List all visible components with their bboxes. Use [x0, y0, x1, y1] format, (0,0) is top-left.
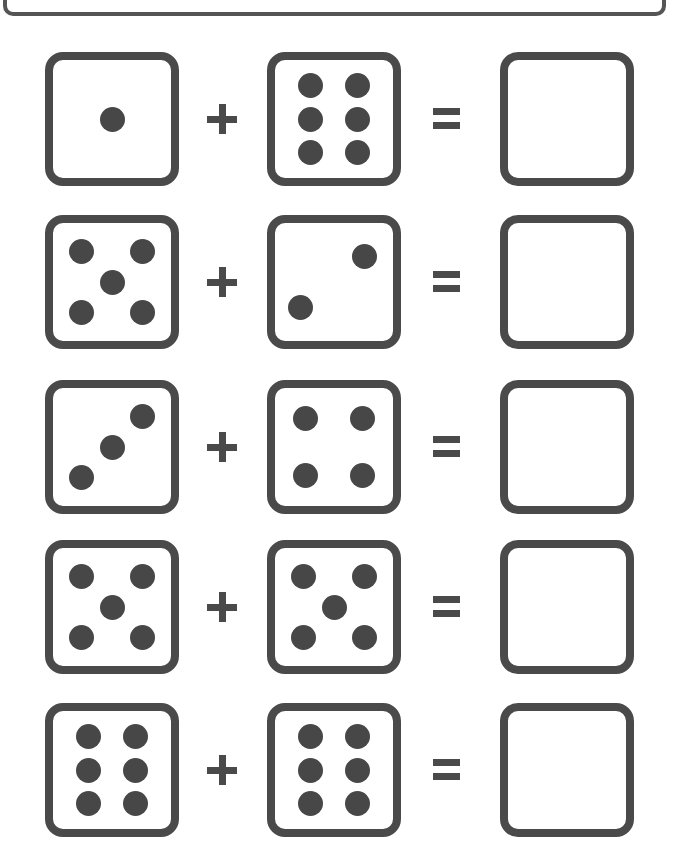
equals-icon: = [426, 703, 466, 837]
plus-icon: + [202, 52, 242, 186]
pip-icon [350, 406, 375, 431]
pip-icon [352, 244, 377, 269]
die-right-value: 6 [275, 60, 276, 61]
answer-value [508, 548, 509, 549]
pip-icon [352, 625, 377, 650]
pip-icon [76, 758, 101, 783]
pip-icon [130, 564, 155, 589]
pip-icon [352, 564, 377, 589]
pip-icon [345, 140, 370, 165]
pip-icon [69, 625, 94, 650]
equals-icon: = [426, 380, 466, 514]
problem-row: 5 + 2 = [0, 215, 677, 351]
pip-icon [69, 300, 94, 325]
die-left-value: 5 [53, 548, 54, 549]
pip-icon [345, 758, 370, 783]
pip-icon [298, 758, 323, 783]
problem-row: 6 + 6 = [0, 703, 677, 839]
equals-icon: = [426, 540, 466, 674]
header-box [3, 0, 666, 16]
equals-icon: = [426, 215, 466, 349]
pip-icon [291, 625, 316, 650]
pip-icon [123, 791, 148, 816]
answer-value [508, 223, 509, 224]
pip-icon [100, 107, 125, 132]
equals-icon: = [426, 52, 466, 186]
pip-icon [130, 404, 155, 429]
answer-box[interactable] [500, 52, 634, 186]
pip-icon [69, 465, 94, 490]
die-right-value: 6 [275, 711, 276, 712]
answer-box[interactable] [500, 215, 634, 349]
pip-icon [130, 625, 155, 650]
plus-icon: + [202, 380, 242, 514]
pip-icon [130, 300, 155, 325]
answer-value [508, 60, 509, 61]
pip-icon [100, 435, 125, 460]
die-left-value: 1 [53, 60, 54, 61]
die-left: 6 [45, 703, 179, 837]
plus-icon: + [202, 703, 242, 837]
pip-icon [100, 595, 125, 620]
pip-icon [350, 463, 375, 488]
pip-icon [288, 295, 313, 320]
pip-icon [100, 270, 125, 295]
pip-icon [298, 791, 323, 816]
pip-icon [123, 724, 148, 749]
answer-value [508, 711, 509, 712]
pip-icon [345, 724, 370, 749]
pip-icon [69, 239, 94, 264]
problem-row: 5 + 5 = [0, 540, 677, 676]
pip-icon [130, 239, 155, 264]
die-left: 5 [45, 215, 179, 349]
die-right-value: 5 [275, 548, 276, 549]
plus-icon: + [202, 215, 242, 349]
pip-icon [291, 564, 316, 589]
die-left-value: 5 [53, 223, 54, 224]
answer-box[interactable] [500, 703, 634, 837]
pip-icon [298, 724, 323, 749]
pip-icon [298, 140, 323, 165]
die-left: 3 [45, 380, 179, 514]
pip-icon [298, 73, 323, 98]
pip-icon [298, 107, 323, 132]
die-left-value: 3 [53, 388, 54, 389]
pip-icon [123, 758, 148, 783]
die-left-value: 6 [53, 711, 54, 712]
problem-row: 1 + 6 = [0, 52, 677, 188]
pip-icon [69, 564, 94, 589]
die-right: 6 [267, 52, 401, 186]
die-right: 5 [267, 540, 401, 674]
die-right: 2 [267, 215, 401, 349]
answer-box[interactable] [500, 380, 634, 514]
pip-icon [345, 73, 370, 98]
pip-icon [322, 595, 347, 620]
die-left: 5 [45, 540, 179, 674]
die-right-value: 2 [275, 223, 276, 224]
die-right: 6 [267, 703, 401, 837]
pip-icon [345, 791, 370, 816]
die-right: 4 [267, 380, 401, 514]
answer-box[interactable] [500, 540, 634, 674]
die-left: 1 [45, 52, 179, 186]
die-right-value: 4 [275, 388, 276, 389]
plus-icon: + [202, 540, 242, 674]
pip-icon [76, 724, 101, 749]
answer-value [508, 388, 509, 389]
pip-icon [76, 791, 101, 816]
problem-row: 3 + 4 = [0, 380, 677, 516]
pip-icon [345, 107, 370, 132]
pip-icon [293, 463, 318, 488]
pip-icon [293, 406, 318, 431]
